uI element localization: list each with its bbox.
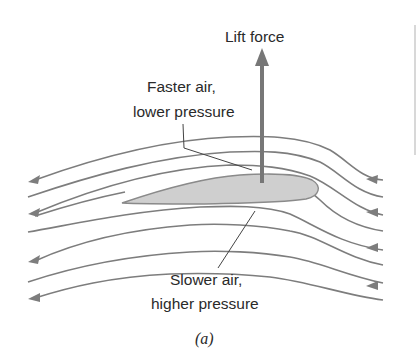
airfoil-diagram: Lift force Faster air, lower pressure Sl…	[0, 0, 417, 361]
leader-lower	[218, 211, 255, 268]
lower-label-line2: higher pressure	[151, 292, 259, 316]
page-edge	[414, 25, 416, 155]
figure-caption: (a)	[195, 330, 214, 348]
upper-label-line2: lower pressure	[133, 100, 235, 124]
streamline-6	[35, 224, 383, 265]
upper-label-line1: Faster air,	[147, 75, 216, 99]
airfoil	[122, 174, 318, 204]
lower-label-line1: Slower air,	[170, 268, 242, 292]
leader-upper	[183, 124, 252, 170]
lift-arrow	[255, 48, 269, 183]
streamline-1	[35, 137, 383, 181]
lift-force-label: Lift force	[225, 25, 284, 49]
